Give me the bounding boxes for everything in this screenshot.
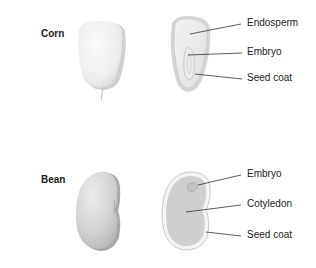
corn-cross-section xyxy=(171,16,211,92)
bean-part-label-seed-coat: Seed coat xyxy=(247,229,292,240)
bean-part-label-cotyledon: Cotyledon xyxy=(247,198,292,209)
bean-part-label-embryo: Embryo xyxy=(247,168,281,179)
seed-label-corn: Corn xyxy=(41,28,64,39)
seed-label-bean: Bean xyxy=(41,174,65,185)
corn-whole-seed xyxy=(78,21,126,100)
corn-part-label-embryo: Embryo xyxy=(247,46,281,57)
bean-whole-seed xyxy=(76,172,120,251)
corn-part-label-seed-coat: Seed coat xyxy=(247,72,292,83)
seed-diagram-art xyxy=(0,0,316,268)
corn-part-label-endosperm: Endosperm xyxy=(247,17,298,28)
